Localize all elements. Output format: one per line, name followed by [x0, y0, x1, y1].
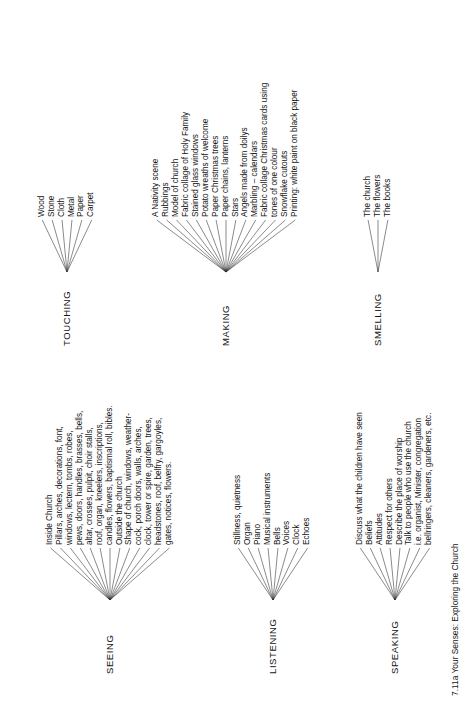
- leaf-label: Pillars, arches, decorations, font,: [55, 426, 65, 545]
- leaf-label: Wood: [37, 196, 47, 217]
- connector-line: [110, 548, 120, 600]
- leaf-label: The church: [363, 176, 373, 217]
- leaf-label: The books: [383, 179, 393, 217]
- leaf-label: Bells: [273, 527, 283, 545]
- connector-line: [110, 548, 169, 600]
- connector-line: [216, 220, 226, 272]
- connector-line: [226, 220, 236, 272]
- leaf-label: Respect for others: [385, 478, 395, 545]
- leaf-label: cock, porch doors, walls, arches,: [134, 426, 144, 545]
- connector-line: [226, 220, 266, 272]
- connector-line: [196, 220, 226, 272]
- connector-line: [226, 220, 285, 272]
- group-smelling: SMELLING The churchThe flowersThe books: [348, 46, 408, 346]
- leaf-label: Paper chains, lanterns: [221, 136, 231, 217]
- connector-line: [110, 548, 160, 600]
- group-speaking: SPEAKING Discuss what the children have …: [340, 374, 450, 674]
- leaf-label: candles, flowers, baptismal roll, bibles…: [105, 405, 115, 545]
- connector-line: [110, 548, 150, 600]
- leaf-label: altar, crosses, pulpit, choir stalls,: [85, 427, 95, 545]
- connector-line: [80, 548, 110, 600]
- leaf-label: Stillness, quietness: [233, 475, 243, 545]
- connector-line: [100, 548, 110, 600]
- connector-line: [360, 548, 395, 600]
- leaf-label: Inside Church: [45, 494, 55, 545]
- connector-line: [51, 548, 110, 600]
- leaf-label: A Nativity scene: [151, 159, 161, 217]
- leaf-label: Metal: [67, 197, 77, 217]
- connector-line: [177, 220, 227, 272]
- leaf-label: Printing: white paint on black paper: [290, 90, 300, 217]
- connector-line: [167, 220, 226, 272]
- leaf-label: Talk to people who use the church: [404, 421, 414, 545]
- connector-line: [206, 220, 226, 272]
- leaf-label: Clock: [292, 525, 302, 545]
- connector-line: [226, 220, 256, 272]
- leaf-label: Echoes: [302, 518, 312, 545]
- leaf-label: Stained glass windows: [191, 134, 201, 217]
- connector-line: [238, 548, 273, 600]
- group-making: MAKING A Nativity sceneRubbingsModel of …: [128, 46, 324, 346]
- connector-line: [226, 220, 246, 272]
- leaf-label: Shape of church, windows, weather-: [124, 413, 134, 545]
- leaf-label: Piano: [253, 524, 263, 545]
- leaf-label: Snowflake cutouts: [280, 151, 290, 217]
- connector-line: [90, 548, 110, 600]
- group-seeing: SEEING Inside ChurchPillars, arches, dec…: [20, 374, 200, 674]
- leaf-label: headstones, roof, belfry, gargoyles,: [154, 418, 164, 545]
- leaf-label: Paper: [76, 195, 86, 217]
- leaf-label: roof, organ, kneelers, inscriptions,: [95, 422, 105, 545]
- connector-line: [273, 548, 308, 600]
- connector-line: [395, 548, 430, 600]
- leaf-label: Attitudes: [375, 513, 385, 545]
- connector-line: [378, 220, 388, 272]
- leaf-label: Stars: [231, 198, 241, 217]
- figure-caption: 7.11a Your Senses: Exploring the Church: [450, 543, 460, 696]
- connector-line: [186, 220, 226, 272]
- group-touching: TOUCHING WoodStoneClothMetalPaperCarpet: [22, 46, 112, 346]
- connector-line: [70, 548, 110, 600]
- leaf-label: pews, doors, handles, brasses, bells,: [75, 411, 85, 545]
- leaf-label: Musical instruments: [263, 473, 273, 545]
- connector-line: [61, 548, 111, 600]
- leaf-label: Stone: [47, 196, 57, 217]
- leaf-label: windows, lectern, tombs, robes,: [65, 430, 75, 545]
- leaf-label: clock, tower or spire, garden, trees,: [144, 417, 154, 545]
- leaf-label: Marbling – calendars: [250, 141, 260, 217]
- leaf-label: Fabric collage Christmas cards using: [260, 83, 270, 217]
- leaf-label: Cloth: [57, 198, 67, 217]
- leaf-label: Model of church: [171, 159, 181, 217]
- connector-line: [226, 220, 295, 272]
- diagram-sheet: SEEING Inside ChurchPillars, arches, dec…: [0, 0, 464, 702]
- leaf-label: tones of one colour: [270, 147, 280, 217]
- leaf-label: Describe the place of worship: [395, 438, 405, 545]
- leaf-label: Outside the church: [115, 476, 125, 545]
- leaf-label: Rubbings: [161, 182, 171, 217]
- leaf-label: i.e. organist, Minister, congregation: [414, 418, 424, 545]
- group-listening: LISTENING Stillness, quietnessOrganPiano…: [218, 374, 328, 674]
- leaf-label: Fabric collage of Holy Family: [181, 112, 191, 217]
- connector-line: [157, 220, 226, 272]
- leaf-label: gates, notices, flowers.: [164, 462, 174, 545]
- connector-line: [368, 220, 378, 272]
- leaf-label: Discuss what the children have seen: [355, 412, 365, 545]
- connector-line: [110, 548, 140, 600]
- leaf-label: Carpet: [86, 192, 96, 217]
- leaf-label: The flowers: [373, 175, 383, 217]
- leaf-label: Voices: [282, 521, 292, 545]
- connector-line: [226, 220, 276, 272]
- leaf-label: Paper Christmas trees: [211, 136, 221, 217]
- connector-line: [110, 548, 130, 600]
- leaf-label: Beliefs: [365, 520, 375, 545]
- leaf-label: bellringers, cleaners, gardeners, etc.: [424, 413, 434, 545]
- leaf-label: Organ: [243, 522, 253, 545]
- leaf-label: Angels made from doilys: [240, 127, 250, 217]
- leaf-label: Potato wreaths of welcome: [201, 119, 211, 217]
